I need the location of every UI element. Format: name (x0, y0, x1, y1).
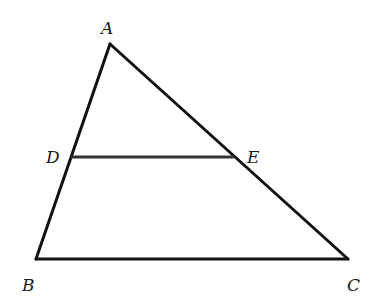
point-label-e: E (247, 149, 259, 166)
vertex-label-a: A (101, 20, 113, 37)
triangle-diagram: A D E B C (0, 0, 377, 305)
segment-ac (110, 44, 348, 259)
point-label-d: D (46, 149, 60, 166)
vertex-label-b: B (22, 277, 35, 294)
vertex-label-c: C (347, 277, 360, 294)
